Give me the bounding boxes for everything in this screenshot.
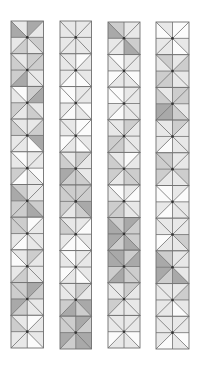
square [60, 119, 92, 152]
square [108, 185, 140, 218]
center-dot-icon [171, 70, 174, 73]
square [60, 21, 92, 54]
strip-4 [156, 22, 189, 349]
center-dot-icon [26, 265, 29, 268]
center-dot-icon [123, 70, 126, 73]
square [11, 86, 44, 119]
square [11, 54, 44, 87]
strips-group [11, 21, 189, 349]
center-dot-icon [26, 167, 29, 170]
square [60, 152, 92, 185]
square [11, 283, 44, 316]
square [156, 87, 189, 120]
square [108, 55, 140, 88]
center-dot-icon [171, 266, 174, 269]
center-dot-icon [26, 69, 29, 72]
center-dot-icon [26, 101, 29, 104]
square [108, 250, 140, 283]
center-dot-icon [123, 37, 126, 40]
center-dot-icon [123, 298, 126, 301]
strip-1 [11, 21, 44, 348]
square [11, 119, 44, 152]
square [108, 315, 140, 348]
center-dot-icon [74, 102, 77, 105]
square [11, 250, 44, 283]
center-dot-icon [74, 135, 77, 138]
center-dot-icon [74, 299, 77, 302]
square [108, 283, 140, 316]
center-dot-icon [74, 69, 77, 72]
square [60, 185, 92, 218]
square [60, 316, 92, 349]
center-dot-icon [171, 201, 174, 204]
strip-2 [60, 21, 92, 349]
center-dot-icon [123, 102, 126, 105]
square [11, 152, 44, 185]
center-dot-icon [74, 36, 77, 39]
center-dot-icon [171, 135, 174, 138]
center-dot-icon [123, 135, 126, 138]
square [60, 87, 92, 120]
square [108, 22, 140, 55]
square [60, 218, 92, 251]
center-dot-icon [123, 233, 126, 236]
square [60, 251, 92, 284]
square [156, 316, 189, 349]
square [60, 54, 92, 87]
center-dot-icon [123, 167, 126, 170]
square [156, 55, 189, 88]
center-dot-icon [123, 265, 126, 268]
center-dot-icon [74, 200, 77, 203]
square [156, 218, 189, 251]
center-dot-icon [26, 200, 29, 203]
square [156, 22, 189, 55]
square [156, 284, 189, 317]
square [108, 120, 140, 153]
center-dot-icon [74, 233, 77, 236]
square [11, 315, 44, 348]
square [156, 186, 189, 219]
square [156, 153, 189, 186]
triangle-strips-figure [0, 0, 198, 366]
center-dot-icon [123, 200, 126, 203]
square [11, 185, 44, 218]
center-dot-icon [74, 266, 77, 269]
square [156, 251, 189, 284]
center-dot-icon [26, 36, 29, 39]
center-dot-icon [26, 232, 29, 235]
square [108, 152, 140, 185]
square [108, 87, 140, 120]
center-dot-icon [171, 102, 174, 105]
center-dot-icon [171, 299, 174, 302]
center-dot-icon [26, 134, 29, 137]
center-dot-icon [171, 37, 174, 40]
center-dot-icon [74, 331, 77, 334]
square [11, 217, 44, 250]
center-dot-icon [26, 330, 29, 333]
center-dot-icon [123, 330, 126, 333]
square [60, 283, 92, 316]
square [108, 218, 140, 251]
square [11, 21, 44, 54]
square [156, 120, 189, 153]
center-dot-icon [26, 298, 29, 301]
strip-3 [108, 22, 140, 348]
center-dot-icon [171, 233, 174, 236]
center-dot-icon [74, 167, 77, 170]
center-dot-icon [171, 168, 174, 171]
center-dot-icon [171, 331, 174, 334]
